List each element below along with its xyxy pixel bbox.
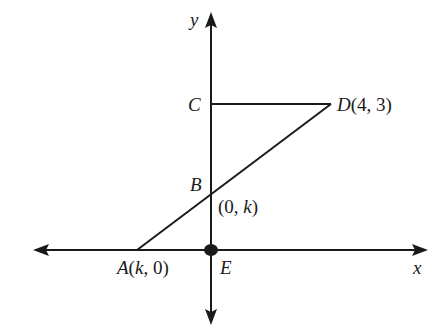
point-a-name: A xyxy=(115,257,129,278)
point-b-coord: (0, k) xyxy=(218,196,258,218)
point-a-label: A(k, 0) xyxy=(115,257,169,279)
point-a-close: , 0) xyxy=(143,257,168,279)
point-b-coord-open: (0, xyxy=(218,196,243,218)
segment-da xyxy=(137,104,331,250)
point-b-coord-close: ) xyxy=(252,196,258,218)
y-axis-label: y xyxy=(188,9,199,30)
coordinate-diagram: y x C D(4, 3) B (0, k) A(k, 0) E xyxy=(0,0,443,335)
point-d-label: D(4, 3) xyxy=(336,94,392,116)
point-e-dot xyxy=(204,244,218,256)
point-b-label: B xyxy=(190,174,202,195)
point-c-label: C xyxy=(188,94,201,115)
point-d-coord: (4, 3) xyxy=(351,94,392,116)
point-d-name: D xyxy=(336,94,351,115)
x-axis-label: x xyxy=(412,257,422,278)
point-e-label: E xyxy=(219,257,232,278)
